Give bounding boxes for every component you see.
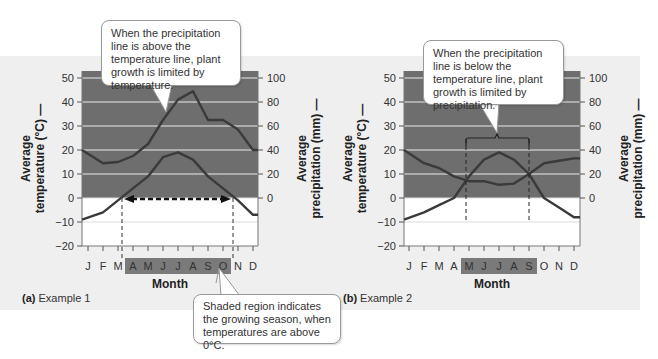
y-left-tick-label: 50 — [62, 72, 74, 84]
caption-example-1: (a) Example 1 — [22, 292, 90, 304]
y-left-tick-label: 40 — [384, 96, 396, 108]
y-right-tick-label: 40 — [589, 144, 601, 156]
y-left-tick-label: −20 — [377, 240, 396, 252]
y-left-tick-label: −20 — [55, 240, 74, 252]
y-left-tick-label: 0 — [68, 192, 74, 204]
y-left-tick-label: 50 — [384, 72, 396, 84]
month-tick-label: J — [406, 260, 412, 272]
month-tick-label: D — [570, 260, 578, 272]
month-tick-label: A — [510, 260, 518, 272]
month-tick-label: N — [555, 260, 563, 272]
x-axis-label: Month — [474, 277, 510, 291]
month-tick-label: J — [481, 260, 487, 272]
y-left-tick-label: −10 — [377, 216, 396, 228]
callout-precipitation-limited: When the precipitation line is below the… — [423, 40, 564, 105]
month-tick-label: S — [525, 260, 532, 272]
month-tick-label: J — [175, 260, 181, 272]
y-right-axis-label: Averageprecipitation (mm) — — [295, 98, 323, 218]
y-right-tick-label: 80 — [589, 96, 601, 108]
y-right-tick-label: 20 — [589, 168, 601, 180]
month-tick-label: F — [100, 260, 107, 272]
month-tick-label: S — [204, 260, 211, 272]
month-tick-label: F — [421, 260, 428, 272]
month-tick-label: N — [234, 260, 242, 272]
y-right-tick-label: 60 — [589, 120, 601, 132]
caption-b-label: (b) — [343, 292, 357, 304]
month-tick-label: M — [113, 260, 122, 272]
y-right-tick-label: 60 — [267, 120, 279, 132]
y-left-tick-label: 40 — [62, 96, 74, 108]
y-left-tick-label: 10 — [384, 168, 396, 180]
month-tick-label: O — [219, 260, 228, 272]
y-left-tick-label: 10 — [62, 168, 74, 180]
month-tick-label: A — [189, 260, 197, 272]
caption-example-2: (b) Example 2 — [343, 292, 412, 304]
month-tick-label: J — [85, 260, 91, 272]
month-tick-label: J — [160, 260, 166, 272]
y-left-tick-label: 0 — [390, 192, 396, 204]
month-tick-label: M — [143, 260, 152, 272]
caption-b-text: Example 2 — [357, 292, 412, 304]
month-tick-label: M — [434, 260, 443, 272]
y-right-tick-label: 80 — [267, 96, 279, 108]
y-right-tick-label: 100 — [267, 72, 285, 84]
y-right-tick-label: 0 — [267, 192, 273, 204]
callout-growing-season: Shaded region indicates the growing seas… — [193, 294, 341, 344]
month-tick-label: A — [450, 260, 458, 272]
caption-a-label: (a) — [22, 292, 35, 304]
chart-example-1: −20−1001020304050020406080100JFMAMJJASON… — [19, 71, 323, 291]
month-tick-label: D — [249, 260, 257, 272]
month-tick-label: M — [464, 260, 473, 272]
y-left-tick-label: 20 — [384, 144, 396, 156]
x-axis-label: Month — [152, 277, 188, 291]
y-left-tick-label: 30 — [384, 120, 396, 132]
y-right-tick-label: 20 — [267, 168, 279, 180]
y-right-tick-label: 0 — [589, 192, 595, 204]
month-tick-label: J — [496, 260, 502, 272]
y-right-axis-label: Averageprecipitation (mm) — — [617, 98, 645, 218]
month-tick-label: A — [129, 260, 137, 272]
callout-temperature-limited: When the precipitation line is above the… — [101, 20, 241, 86]
y-left-tick-label: −10 — [55, 216, 74, 228]
y-right-tick-label: 100 — [589, 72, 607, 84]
y-left-tick-label: 20 — [62, 144, 74, 156]
y-left-axis-label: Averagetemperature (°C) — — [341, 104, 369, 213]
y-right-tick-label: 40 — [267, 144, 279, 156]
y-left-tick-label: 30 — [62, 120, 74, 132]
month-tick-label: O — [540, 260, 549, 272]
caption-a-text: Example 1 — [35, 292, 90, 304]
y-left-axis-label: Averagetemperature (°C) — — [19, 104, 47, 213]
